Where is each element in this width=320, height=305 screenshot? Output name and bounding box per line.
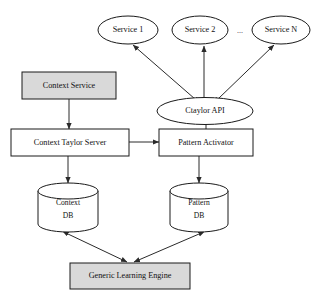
node-generic-learning-engine[interactable]: Generic Learning Engine: [70, 263, 190, 289]
node-context-db[interactable]: Context DB: [38, 183, 98, 232]
node-pattern-db[interactable]: Pattern DB: [170, 183, 228, 232]
pattern-db-cylinder-top: [170, 183, 228, 199]
service-2-ellipse: [172, 16, 228, 44]
context-db-cylinder-top: [38, 183, 98, 199]
services-ellipsis-label: ...: [237, 26, 243, 35]
context-service-box: [22, 72, 116, 99]
generic-learning-engine-box: [70, 263, 190, 289]
node-context-service[interactable]: Context Service: [22, 72, 116, 99]
architecture-diagram: Service 1 Service 2 ... Service N Ctaylo…: [0, 0, 320, 305]
service-1-ellipse: [98, 16, 158, 44]
edge-ctaylorapi-serviceN: [218, 45, 274, 99]
diagram-canvas: Service 1 Service 2 ... Service N Ctaylo…: [0, 0, 320, 305]
pattern-activator-box: [159, 129, 253, 156]
node-context-taylor-server[interactable]: Context Taylor Server: [11, 129, 129, 156]
service-n-ellipse: [252, 16, 310, 44]
edge-contextdb-learningengine: [68, 234, 127, 262]
node-service-n[interactable]: Service N: [252, 16, 310, 44]
node-service-2[interactable]: Service 2: [172, 16, 228, 44]
node-pattern-activator[interactable]: Pattern Activator: [159, 129, 253, 156]
edge-patterndb-learningengine: [134, 234, 199, 262]
context-taylor-server-box: [11, 129, 129, 156]
node-ctaylor-api[interactable]: Ctaylor API: [157, 98, 253, 125]
node-service-1[interactable]: Service 1: [98, 16, 158, 44]
edge-ctaylorapi-service1: [133, 45, 195, 99]
ctaylor-api-ellipse: [157, 98, 253, 125]
